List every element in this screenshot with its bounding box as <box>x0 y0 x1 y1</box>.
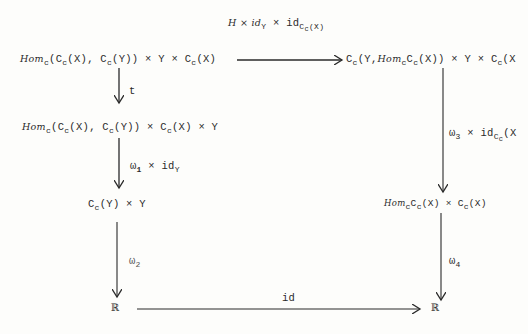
label-sub: 4 <box>456 260 461 269</box>
node-text: (X) <box>196 53 216 65</box>
node-text: (Y) × Y <box>100 198 146 210</box>
label-text: × id <box>266 17 299 29</box>
omega-symbol: ω <box>130 160 137 172</box>
arrow-omega3-label: ω3 × idCc(X <box>449 128 517 143</box>
hom-text: Hom <box>22 121 46 132</box>
label-sub: Cc(X) <box>299 22 324 31</box>
hom-text: Hom <box>378 53 402 64</box>
label-sub: Cc <box>494 132 504 141</box>
node-text: (C <box>49 53 62 65</box>
node-text: (Y)) × Y × C <box>112 53 191 65</box>
node-text: (Y, <box>358 53 378 65</box>
node-mid-left: Homc(Cc(X), Cc(Y)) × Cc(X) × Y <box>22 122 218 135</box>
arrow-omega1-label: ω1 × idY <box>130 161 180 174</box>
node-bottom-right-reals: ℝ <box>431 303 440 313</box>
label-sub: Y <box>175 165 180 174</box>
node-text: (X)) × Y × C <box>418 53 497 65</box>
node-text: C <box>88 198 95 210</box>
node-text: C <box>346 53 353 65</box>
label-sub-text: (X) <box>309 22 324 31</box>
node-text: (C <box>51 121 64 133</box>
node-text: (X) <box>469 198 487 209</box>
arrow-bottom-label: id <box>282 293 295 304</box>
node-text: (X), C <box>67 53 107 65</box>
label-text: H × id <box>228 17 261 28</box>
hom-text: Hom <box>20 53 44 64</box>
node-text: (X), C <box>69 121 109 133</box>
arrow-top-label: H × idY × idCc(X) <box>228 18 324 33</box>
omega-symbol: ω <box>129 255 136 267</box>
label-text: × id <box>461 127 494 139</box>
hom-text: Hom <box>384 198 406 208</box>
arrow-omega4-label: ω4 <box>449 256 461 269</box>
label-text: (X <box>503 127 516 139</box>
node-text: (X) × Y <box>172 121 218 133</box>
node-text: (X <box>503 53 516 65</box>
arrow-omega2-label: ω2 <box>129 256 141 269</box>
node-text: (Y)) × C <box>114 121 167 133</box>
node-top-left: Homc(Cc(X), Cc(Y)) × Y × Cc(X) <box>20 54 216 67</box>
node-text: (X) × C <box>422 198 464 209</box>
node-bottom-left-reals: ℝ <box>111 303 120 313</box>
node-lower-left: Cc(Y) × Y <box>88 199 146 212</box>
arrow-t-label: t <box>129 86 136 97</box>
omega-symbol: ω <box>449 127 456 139</box>
node-top-right: Cc(Y,HomcCc(X)) × Y × Cc(X <box>346 54 516 67</box>
omega-symbol: ω <box>449 255 456 267</box>
label-text: × id <box>142 160 175 172</box>
arrow-layer <box>0 0 528 334</box>
node-lower-right: HomcCc(X) × Cc(X) <box>384 199 487 211</box>
label-sub: 2 <box>136 260 141 269</box>
